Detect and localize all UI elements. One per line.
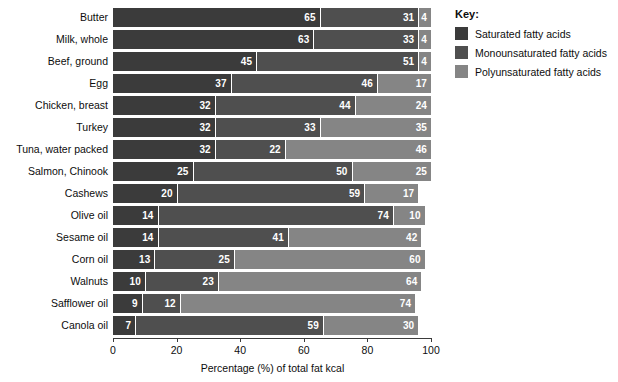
legend-item: Saturated fatty acids: [455, 27, 615, 40]
bar-segment-value: 7: [126, 320, 136, 331]
bar-segment-value: 25: [219, 254, 234, 265]
bar-segment: 63: [113, 30, 313, 49]
category-label: Egg: [0, 74, 108, 93]
category-label: Beef, ground: [0, 52, 108, 71]
stacked-bar: 144142: [113, 228, 431, 247]
legend-item-label: Monounsaturated fatty acids: [475, 47, 607, 59]
bar-segment: 4: [418, 52, 431, 71]
x-axis-line: [113, 338, 432, 339]
x-axis-tick-mark: [304, 338, 305, 342]
bar-segment-value: 22: [269, 144, 284, 155]
stacked-bar: 147410: [113, 206, 431, 225]
bar-segment-value: 17: [403, 188, 418, 199]
bar-segment: 4: [418, 30, 431, 49]
legend-item: Monounsaturated fatty acids: [455, 46, 615, 59]
bar-segment-value: 42: [406, 232, 421, 243]
bar-segment-value: 32: [199, 144, 214, 155]
bar-segment-value: 17: [416, 78, 431, 89]
bar-segment: 7: [113, 316, 135, 335]
bar-segment: 24: [355, 96, 431, 115]
bar-segment: 9: [113, 294, 142, 313]
bar-segment-value: 45: [241, 56, 256, 67]
bar-segment-value: 60: [409, 254, 424, 265]
bar-segment: 51: [256, 52, 418, 71]
bar-segment: 14: [113, 206, 158, 225]
x-axis-tick-label: 0: [93, 344, 133, 356]
x-axis-tick-mark: [240, 338, 241, 342]
bar-segment-value: 59: [349, 188, 364, 199]
chart-row: Safflower oil91274: [0, 294, 618, 313]
bar-segment-value: 32: [199, 122, 214, 133]
bar-segment: 35: [320, 118, 431, 137]
bar-segment: 20: [113, 184, 177, 203]
category-label: Turkey: [0, 118, 108, 137]
chart-row: Sesame oil144142: [0, 228, 618, 247]
bar-segment-value: 74: [378, 210, 393, 221]
stacked-bar: 65314: [113, 8, 431, 27]
bar-segment: 31: [320, 8, 419, 27]
bar-segment: 32: [113, 140, 215, 159]
bar-segment: 22: [215, 140, 285, 159]
chart-row: Cashews205917: [0, 184, 618, 203]
bar-segment: 50: [193, 162, 352, 181]
stacked-bar: 324424: [113, 96, 431, 115]
bar-segment-value: 24: [416, 100, 431, 111]
bar-segment-value: 4: [421, 56, 431, 67]
bar-segment-value: 14: [142, 232, 157, 243]
bar-segment-value: 35: [416, 122, 431, 133]
stacked-bar: 45514: [113, 52, 431, 71]
category-label: Olive oil: [0, 206, 108, 225]
bar-segment-value: 50: [336, 166, 351, 177]
stacked-bar: 91274: [113, 294, 431, 313]
bar-segment: 32: [113, 118, 215, 137]
bar-segment: 17: [377, 74, 431, 93]
bar-segment: 12: [142, 294, 180, 313]
bar-segment-value: 44: [339, 100, 354, 111]
chart-row: Olive oil147410: [0, 206, 618, 225]
x-axis-tick-label: 100: [411, 344, 451, 356]
bar-segment: 74: [158, 206, 393, 225]
bar-segment: 46: [285, 140, 431, 159]
bar-segment-value: 33: [304, 122, 319, 133]
category-label: Butter: [0, 8, 108, 27]
chart-row: Tuna, water packed322246: [0, 140, 618, 159]
x-axis-tick-label: 80: [347, 344, 387, 356]
bar-segment: 74: [180, 294, 415, 313]
legend-swatch-icon: [455, 65, 468, 78]
chart-row: Corn oil132560: [0, 250, 618, 269]
bar-segment: 4: [418, 8, 431, 27]
x-axis-tick-label: 20: [157, 344, 197, 356]
bar-segment-value: 65: [304, 12, 319, 23]
stacked-bar: 102364: [113, 272, 431, 291]
chart-row: Salmon, Chinook255025: [0, 162, 618, 181]
stacked-bar: 255025: [113, 162, 431, 181]
bar-segment: 25: [352, 162, 432, 181]
category-label: Safflower oil: [0, 294, 108, 313]
bar-segment: 33: [313, 30, 418, 49]
legend: Key: Saturated fatty acidsMonounsaturate…: [455, 8, 615, 84]
chart-row: Turkey323335: [0, 118, 618, 137]
bar-segment-value: 59: [308, 320, 323, 331]
bar-segment-value: 31: [403, 12, 418, 23]
bar-segment-value: 46: [362, 78, 377, 89]
x-axis-tick-label: 60: [284, 344, 324, 356]
legend-item-label: Saturated fatty acids: [475, 28, 571, 40]
bar-segment: 46: [231, 74, 377, 93]
bar-segment-value: 12: [164, 298, 179, 309]
category-label: Cashews: [0, 184, 108, 203]
bar-segment-value: 4: [421, 12, 431, 23]
bar-segment: 44: [215, 96, 355, 115]
bar-segment-value: 14: [142, 210, 157, 221]
bar-segment: 14: [113, 228, 158, 247]
x-axis-tick-mark: [367, 338, 368, 342]
category-label: Corn oil: [0, 250, 108, 269]
bar-segment-value: 10: [129, 276, 144, 287]
stacked-bar: 322246: [113, 140, 431, 159]
bar-segment: 60: [234, 250, 425, 269]
stacked-bar: 323335: [113, 118, 431, 137]
bar-segment: 13: [113, 250, 154, 269]
category-label: Milk, whole: [0, 30, 108, 49]
x-axis-tick-mark: [177, 338, 178, 342]
bar-segment: 33: [215, 118, 320, 137]
bar-segment-value: 64: [406, 276, 421, 287]
